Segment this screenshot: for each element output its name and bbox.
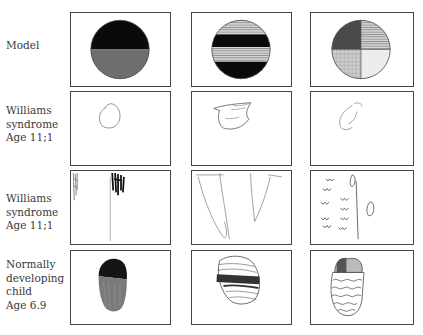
row-label-williams-2: Williams syndrome Age 11;1 [6, 192, 58, 233]
scribble-bag-icon [192, 92, 291, 165]
row-label-model: Model [6, 39, 39, 53]
scribble-strokes-icon [71, 171, 170, 244]
drawing-ws1-col2 [191, 91, 292, 166]
drawing-ws1-col1 [70, 91, 171, 166]
scribble-lines-icon [192, 171, 291, 244]
model-circle-half-icon [71, 13, 170, 86]
label-line: Normally [6, 258, 64, 272]
model-panel-2 [191, 12, 292, 87]
label-line: Williams [6, 104, 58, 118]
scribble-oval-icon [71, 92, 170, 165]
label-line: Age 11;1 [6, 219, 58, 233]
drawing-normal-col3 [310, 250, 414, 325]
scribble-marks-icon [311, 171, 413, 244]
drawing-normal-col2 [191, 250, 292, 325]
drawing-normal-col1 [70, 250, 171, 325]
model-circle-bands-icon [192, 13, 291, 86]
drawing-ws2-col2 [191, 170, 292, 245]
model-panel-3 [310, 12, 414, 87]
row-label-normal-child: Normally developing child Age 6.9 [6, 258, 64, 312]
model-circle-quadrants-icon [311, 13, 413, 86]
drawing-ws2-col3 [310, 170, 414, 245]
model-panel-1 [70, 12, 171, 87]
drawn-capsule-icon [71, 251, 170, 324]
label-line: developing [6, 272, 64, 286]
label-line: child [6, 285, 64, 299]
scribble-curve-icon [311, 92, 413, 165]
label-line: Age 11;1 [6, 131, 58, 145]
label-line: syndrome [6, 118, 58, 132]
drawing-ws2-col1 [70, 170, 171, 245]
label-line: syndrome [6, 206, 58, 220]
label-line: Age 6.9 [6, 299, 64, 313]
label-line: Williams [6, 192, 58, 206]
drawn-wavy-jar-icon [311, 251, 413, 324]
row-label-williams-1: Williams syndrome Age 11;1 [6, 104, 58, 145]
drawing-ws1-col3 [310, 91, 414, 166]
label-line: Model [6, 39, 39, 53]
drawn-striped-stone-icon [192, 251, 291, 324]
